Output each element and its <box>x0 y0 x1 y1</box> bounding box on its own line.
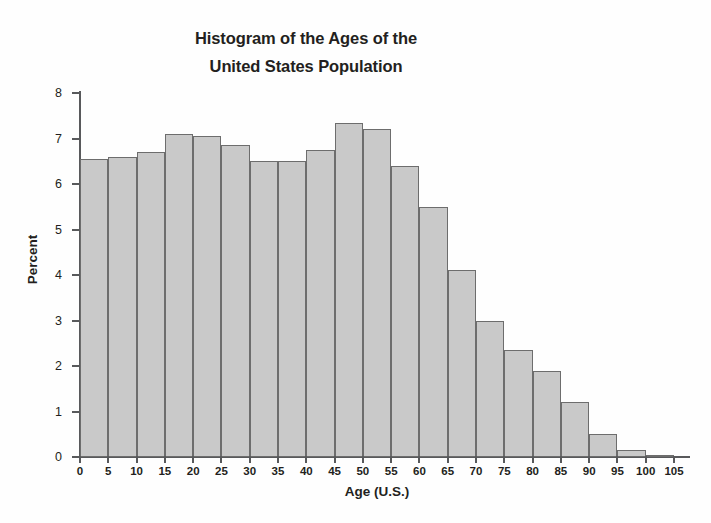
x-axis-tick-mark <box>164 456 166 463</box>
x-axis-tick-mark <box>447 456 449 463</box>
y-axis-tick-label: 6 <box>42 177 62 191</box>
x-axis-tick-mark <box>79 456 81 463</box>
histogram-bar <box>448 270 476 457</box>
y-axis-tick-label: 2 <box>42 359 62 373</box>
histogram-bar <box>533 371 561 457</box>
histogram-bar <box>335 123 363 457</box>
y-axis-tick-label: 7 <box>42 132 62 146</box>
y-axis-ticks: 012345678 <box>0 0 80 523</box>
histogram-bar <box>108 157 136 457</box>
x-axis-tick-mark <box>249 456 251 463</box>
chart-title-line-2: United States Population <box>96 52 516 80</box>
x-axis-tick-mark <box>277 456 279 463</box>
x-axis-tick-mark <box>418 456 420 463</box>
histogram-bar <box>250 161 278 457</box>
histogram-bar <box>476 321 504 458</box>
histogram-bar <box>278 161 306 457</box>
histogram-bar <box>306 150 334 457</box>
histogram-figure: Histogram of the Ages of the United Stat… <box>0 0 711 523</box>
y-axis-tick-label: 1 <box>42 405 62 419</box>
histogram-bar <box>419 207 447 457</box>
x-axis-tick-mark <box>645 456 647 463</box>
plot-area <box>80 93 674 457</box>
x-axis-tick-mark <box>107 456 109 463</box>
x-axis-tick-mark <box>305 456 307 463</box>
x-axis-tick-mark <box>136 456 138 463</box>
x-axis-tick-mark <box>503 456 505 463</box>
histogram-bar <box>561 402 589 457</box>
histogram-bar <box>363 129 391 457</box>
x-axis-tick-mark <box>616 456 618 463</box>
x-axis-tick-mark <box>192 456 194 463</box>
histogram-bar <box>80 159 108 457</box>
y-axis-tick-label: 3 <box>42 314 62 328</box>
x-axis-title: Age (U.S.) <box>80 484 674 499</box>
x-axis-tick-mark <box>673 456 675 463</box>
y-axis-tick: 6 <box>0 177 80 191</box>
y-axis-tick: 2 <box>0 359 80 373</box>
y-axis-tick-label: 5 <box>42 223 62 237</box>
x-axis-tick-mark <box>334 456 336 463</box>
y-axis-tick: 8 <box>0 86 80 100</box>
y-axis-tick: 1 <box>0 405 80 419</box>
x-axis-tick-mark <box>362 456 364 463</box>
x-axis-tick-mark <box>532 456 534 463</box>
x-axis-tick-mark <box>560 456 562 463</box>
histogram-bar <box>504 350 532 457</box>
y-axis-tick-label: 8 <box>42 86 62 100</box>
bars-layer <box>80 93 674 457</box>
histogram-bar <box>221 145 249 457</box>
y-axis-tick: 5 <box>0 223 80 237</box>
histogram-bar <box>137 152 165 457</box>
x-axis-tick-mark <box>475 456 477 463</box>
x-axis-tick-mark <box>220 456 222 463</box>
y-axis-tick-label: 4 <box>42 268 62 282</box>
histogram-bar <box>193 136 221 457</box>
chart-title: Histogram of the Ages of the United Stat… <box>96 24 516 80</box>
histogram-bar <box>589 434 617 457</box>
y-axis-tick: 4 <box>0 268 80 282</box>
histogram-bar <box>391 166 419 457</box>
x-axis-tick-mark <box>390 456 392 463</box>
x-axis-tick-mark <box>588 456 590 463</box>
y-axis-tick: 7 <box>0 132 80 146</box>
histogram-bar <box>165 134 193 457</box>
chart-title-line-1: Histogram of the Ages of the <box>96 24 516 52</box>
y-axis-tick: 3 <box>0 314 80 328</box>
x-axis-tick-label: 105 <box>654 465 694 478</box>
